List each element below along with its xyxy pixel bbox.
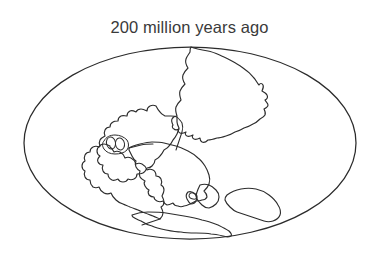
pangaea-figure: 200 million years ago [0,0,379,259]
world-map-illustration [0,0,379,259]
globe-outline-ellipse [24,47,356,239]
